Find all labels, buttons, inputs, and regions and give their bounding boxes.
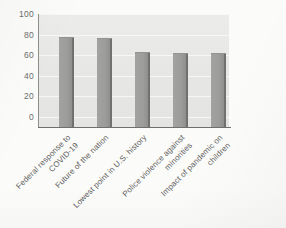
bar-edge-shadow — [72, 38, 74, 127]
plot-area — [38, 14, 229, 127]
y-tick-label: 100 — [2, 9, 34, 19]
chart-page: 100 80 60 40 20 0 Federal response to CO… — [0, 0, 286, 228]
y-tick-label: 60 — [2, 50, 34, 60]
bar-edge-shadow — [224, 54, 226, 127]
y-tick-label: 80 — [2, 30, 34, 40]
y-tick-label: 20 — [2, 91, 34, 101]
bar-edge-shadow — [148, 53, 150, 127]
x-axis-labels: Federal response to COVID-19Future of th… — [0, 127, 286, 228]
y-tick-label: 40 — [2, 71, 34, 81]
gridline — [39, 14, 229, 15]
y-axis: 100 80 60 40 20 0 — [0, 14, 34, 127]
bar-edge-shadow — [110, 39, 112, 127]
gridline — [39, 35, 229, 36]
bar-edge-shadow — [186, 54, 188, 127]
y-tick-label: 0 — [2, 112, 34, 122]
